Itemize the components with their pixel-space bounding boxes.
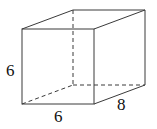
hidden-bottom-left-depth-edge [22, 85, 73, 104]
prism-diagram: 6 6 8 [0, 0, 157, 129]
height-label: 6 [6, 61, 15, 80]
top-right-depth-edge [94, 10, 145, 29]
front-face [22, 29, 94, 104]
top-left-depth-edge [22, 10, 73, 29]
width-label: 6 [54, 107, 63, 126]
depth-label: 8 [117, 95, 126, 114]
